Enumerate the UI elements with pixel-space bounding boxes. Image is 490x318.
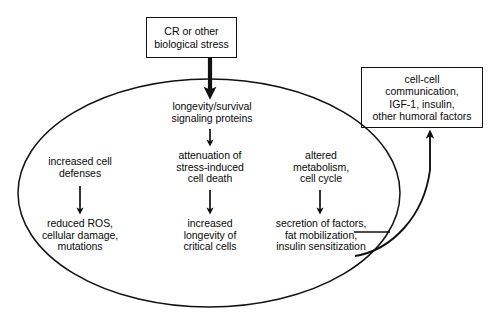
diagram-canvas: CR or other biological stress cell-cell … xyxy=(0,0,490,318)
label-longevity-signaling-proteins: longevity/survival signaling proteins xyxy=(146,101,278,124)
label-cell-cell-communication: cell-cell communication, IGF-1, insulin,… xyxy=(361,67,483,128)
label-increased-cell-defenses: increased cell defenses xyxy=(22,156,138,179)
label-cr-stress: CR or other biological stress xyxy=(146,17,237,58)
label-secretion-of-factors: secretion of factors, fat mobilization, … xyxy=(246,218,396,253)
label-altered-metabolism-cell-cycle: altered metabolism, cell cycle xyxy=(266,150,376,185)
label-reduced-ros: reduced ROS, cellular damage, mutations xyxy=(18,218,142,253)
label-attenuation-stress-induced-cell-death: attenuation of stress-induced cell death xyxy=(150,150,270,185)
